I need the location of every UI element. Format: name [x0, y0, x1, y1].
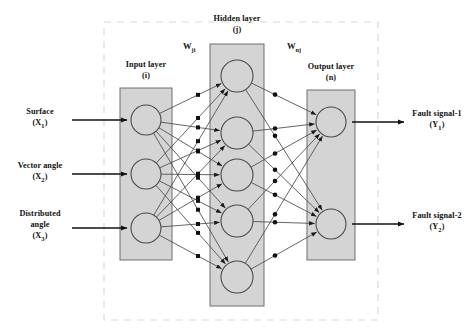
input-label-3: Distributedangle(X3) [0, 209, 100, 243]
weight-marker [196, 254, 200, 258]
weight-marker [273, 179, 278, 184]
weight-marker [196, 231, 200, 235]
weight-subscript-ji: ji [192, 46, 196, 53]
figure-canvas: Input layer (i) Hidden layer (j) Output … [0, 0, 475, 334]
weight-marker [196, 116, 200, 120]
weight-marker [273, 193, 278, 198]
weight-marker [273, 151, 278, 156]
input-label-2-text: Vector angle [18, 161, 63, 170]
weight-subscript-nj: nj [296, 46, 302, 53]
output-label-2-text: Fault signal-2 [412, 211, 461, 220]
hidden-neuron [221, 117, 253, 149]
hidden-neuron [221, 205, 253, 237]
weight-markers-input-to-hidden [196, 93, 200, 258]
weight-symbol-ji: W [183, 41, 192, 51]
output-neuron [316, 209, 346, 239]
weight-marker [273, 167, 278, 172]
weight-marker [273, 126, 278, 131]
weight-marker [196, 125, 200, 129]
weight-marker [273, 134, 278, 139]
input-label-3-text: Distributedangle [19, 209, 60, 229]
hidden-neuron [221, 261, 253, 293]
output-label-1-text: Fault signal-1 [412, 109, 461, 118]
weight-marker [196, 208, 200, 212]
weight-marker [196, 149, 200, 153]
weight-marker [273, 92, 278, 97]
weight-marker [196, 222, 200, 226]
weight-label-hidden-output: Wnj [287, 41, 301, 53]
hidden-neuron [221, 159, 253, 191]
input-label-1: Surface(X1) [0, 107, 100, 130]
hidden-layer-index: (j) [233, 25, 241, 34]
output-layer-title-text: Output layer [308, 62, 354, 71]
weight-label-input-hidden: Wji [183, 41, 195, 53]
weight-marker [196, 139, 200, 143]
weight-marker [273, 253, 278, 258]
hidden-layer-title: Hidden layer (j) [0, 14, 475, 36]
input-neuron [131, 213, 161, 243]
weight-marker [196, 93, 200, 97]
weight-marker [273, 220, 278, 225]
input-neuron [131, 105, 161, 135]
input-neuron [131, 159, 161, 189]
hidden-layer-title-text: Hidden layer [214, 14, 261, 23]
weight-marker [196, 196, 200, 200]
input-label-1-text: Surface [26, 107, 54, 116]
weight-marker [273, 212, 278, 217]
output-layer-title: Output layer (n) [94, 62, 475, 84]
output-label-1: Fault signal-1(Y1) [377, 109, 475, 132]
weight-marker [196, 172, 200, 176]
input-label-2: Vector angle(X2) [0, 161, 100, 184]
output-layer-index: (n) [326, 73, 336, 82]
weight-markers-hidden-to-output [273, 92, 278, 258]
output-label-2: Fault signal-2(Y2) [377, 211, 475, 234]
output-neuron [316, 107, 346, 137]
weight-symbol-nj: W [287, 41, 296, 51]
